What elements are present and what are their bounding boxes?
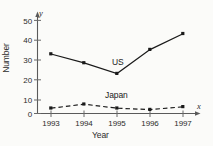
series-us-marker	[181, 32, 184, 35]
y-tick-label-20: 20	[14, 76, 32, 85]
x-axis	[38, 111, 201, 115]
x-tick-label-1993: 1993	[37, 119, 65, 128]
series-japan-marker	[82, 102, 85, 105]
x-axis-arrow-icon	[195, 111, 201, 115]
x-tick-label-1997: 1997	[169, 119, 197, 128]
y-tick-label-40: 40	[14, 36, 32, 45]
x-tick-label-1995: 1995	[103, 119, 131, 128]
y-tick-label-30: 30	[14, 56, 32, 65]
series-us-marker	[115, 72, 118, 75]
y-axis-variable-letter: y	[39, 9, 43, 18]
series-japan-marker	[181, 105, 184, 108]
series-us-line	[51, 34, 183, 74]
y-axis	[35, 12, 39, 114]
series-us-marker	[82, 61, 85, 64]
series-us	[49, 32, 184, 75]
x-tick-label-1994: 1994	[70, 119, 98, 128]
y-tick-label-0: 0	[14, 110, 32, 119]
y-axis-title-wrap: Number	[2, 32, 14, 84]
series-japan	[49, 102, 184, 111]
series-us-marker	[49, 52, 52, 55]
series-label-us: US	[112, 58, 124, 67]
y-axis-title: Number	[2, 32, 11, 84]
series-label-japan: Japan	[105, 91, 128, 100]
x-axis-title: Year	[92, 131, 109, 140]
series-japan-marker	[115, 106, 118, 109]
series-japan-marker	[49, 106, 52, 109]
y-tick-label-50: 50	[14, 17, 32, 26]
y-tick-label-10: 10	[14, 96, 32, 105]
x-axis-variable-letter: x	[197, 102, 201, 111]
series-us-marker	[148, 48, 151, 51]
chart-figure: 50 40 30 20 10 0 1993 1994 1995 1996 199…	[0, 0, 213, 146]
series-japan-marker	[148, 108, 151, 111]
x-tick-label-1996: 1996	[136, 119, 164, 128]
